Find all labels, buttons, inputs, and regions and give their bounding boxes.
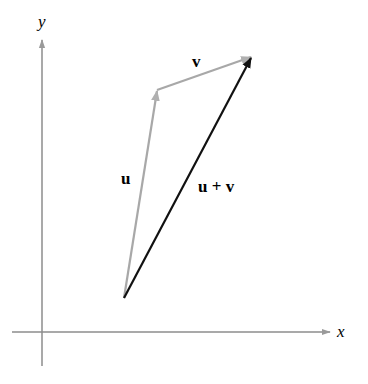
y-axis-label: y [36,12,46,31]
vector-addition-diagram: y x u v u + v [0,0,368,384]
vector-v-label: v [192,52,201,71]
vector-u-label: u [121,169,130,188]
vector-u-plus-v-label: u + v [198,177,235,196]
x-axis-label: x [336,322,345,341]
